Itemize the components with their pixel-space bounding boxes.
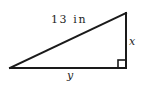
horizontal-leg-label: y [67, 70, 73, 81]
right-angle-square-icon [118, 60, 126, 68]
right-triangle-figure: 13 in x y [0, 0, 146, 88]
hypotenuse-label: 13 in [51, 14, 87, 25]
vertical-leg-label: x [129, 36, 135, 47]
